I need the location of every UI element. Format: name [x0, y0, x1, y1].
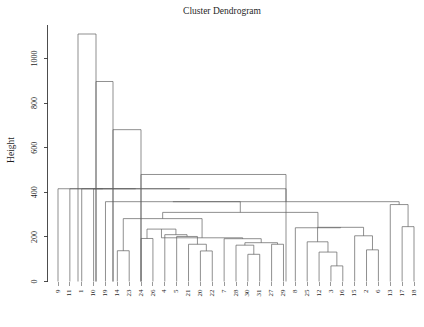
leaf-label: 23: [125, 289, 133, 297]
leaf-label: 3: [327, 289, 335, 293]
leaf-label: 28: [232, 289, 240, 297]
leaf-label: 31: [255, 289, 263, 297]
page-title: Cluster Dendrogram: [183, 6, 261, 16]
leaf-label: 26: [149, 289, 157, 297]
dendrogram-canvas: Cluster Dendrogram 02004006008001000 Hei…: [0, 0, 424, 327]
y-tick-label: 200: [30, 231, 39, 243]
leaf-label: 8: [291, 289, 299, 293]
leaf-label: 13: [386, 289, 394, 297]
leaf-label: 19: [101, 289, 109, 297]
y-tick-label: 400: [30, 186, 39, 198]
leaf-label: 2: [362, 289, 370, 293]
leaf-label: 17: [398, 289, 406, 297]
leaf-label: 24: [137, 289, 145, 297]
leaf-label: 11: [65, 289, 73, 296]
leaf-label: 20: [196, 289, 204, 297]
y-tick-label: 800: [30, 97, 39, 109]
leaf-label: 1: [77, 289, 85, 293]
leaf-label: 14: [113, 289, 121, 297]
leaf-label: 18: [410, 289, 418, 297]
leaf-label: 22: [208, 289, 216, 297]
y-tick-label: 1000: [30, 51, 39, 67]
leaf-label: 21: [184, 289, 192, 297]
leaf-label: 15: [350, 289, 358, 297]
leaf-label: 12: [315, 289, 323, 297]
leaf-label: 10: [89, 289, 97, 297]
leaf-label: 7: [220, 289, 228, 293]
leaf-label: 30: [243, 289, 251, 297]
leaf-label: 9: [54, 289, 62, 293]
y-tick-label: 600: [30, 142, 39, 154]
leaf-label: 4: [160, 289, 168, 293]
y-tick-label: 0: [30, 280, 39, 284]
cluster-dendrogram-plot: Cluster Dendrogram 02004006008001000 Hei…: [0, 0, 424, 327]
leaf-label: 6: [374, 289, 382, 293]
leaf-label: 16: [338, 289, 346, 297]
leaf-label: 27: [267, 289, 275, 297]
leaf-label: 25: [303, 289, 311, 297]
y-axis-title: Height: [6, 137, 16, 163]
leaf-label: 29: [279, 289, 287, 297]
leaf-label: 5: [172, 289, 180, 293]
